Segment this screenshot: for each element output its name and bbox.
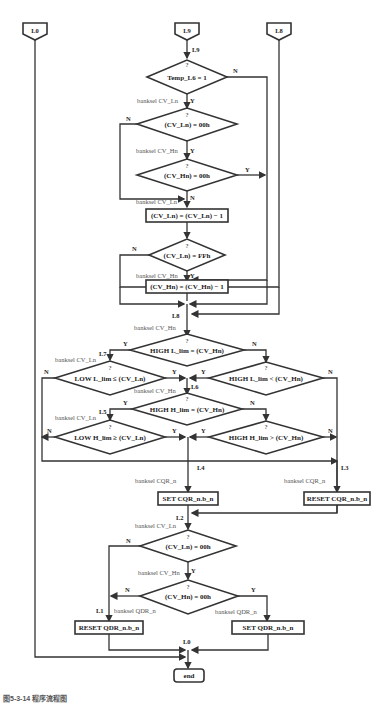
svg-text:SET QDR_n.b_n: SET QDR_n.b_n (243, 624, 294, 632)
svg-text:L1: L1 (96, 607, 104, 614)
svg-text:Y: Y (190, 147, 195, 154)
svg-text:Y: Y (251, 586, 256, 593)
svg-text:?: ? (186, 162, 189, 169)
svg-text:LOW L_lim ≤ (CV_Ln): LOW L_lim ≤ (CV_Ln) (75, 375, 146, 383)
svg-text:(CV_Ln) = 00h: (CV_Ln) = 00h (164, 121, 209, 129)
decision-high-llim-eq: ? HIGH L_lim = (CV_Hn) (130, 334, 244, 366)
svg-text:HIGH L_lim < (CV_Hn): HIGH L_lim < (CV_Hn) (229, 375, 303, 383)
decision-high-hlim-eq: ? HIGH H_lim = (CV_Hn) (132, 393, 242, 425)
svg-text:L5: L5 (99, 408, 107, 415)
svg-text:banksel CV_Ln: banksel CV_Ln (137, 97, 179, 104)
svg-text:?: ? (186, 242, 189, 249)
svg-text:N: N (328, 368, 333, 375)
svg-text:Temp_L6 = 1: Temp_L6 = 1 (167, 74, 207, 82)
svg-text:N: N (125, 586, 130, 593)
decision-low-hlim-ge: ? LOW H_lim ≥ (CV_Ln) (55, 420, 165, 454)
svg-text:?: ? (187, 583, 190, 590)
svg-text:L8: L8 (275, 27, 283, 34)
svg-text:RESET QDR_n.b_n: RESET QDR_n.b_n (79, 624, 140, 632)
svg-text:L2: L2 (176, 514, 184, 521)
svg-text:?: ? (186, 395, 189, 402)
svg-text:L6: L6 (191, 383, 199, 390)
svg-text:N: N (190, 194, 195, 201)
svg-text:N: N (126, 537, 131, 544)
svg-text:banksel CV_Hn: banksel CV_Hn (134, 387, 176, 394)
svg-text:(CV_Ln) = (CV_Ln) − 1: (CV_Ln) = (CV_Ln) − 1 (151, 212, 224, 220)
svg-text:banksel CQR_n: banksel CQR_n (284, 477, 326, 484)
svg-text:HIGH H_lim > (CV_Hn): HIGH H_lim > (CV_Hn) (229, 434, 304, 442)
flowchart: L0 L9 L8 L9 ? Temp_L6 = 1 N banksel CV_L… (0, 0, 391, 703)
svg-text:RESET CQR_n.b_n: RESET CQR_n.b_n (307, 495, 368, 503)
process-reset-qdr: RESET QDR_n.b_n (75, 621, 143, 634)
decision-temp-l6: ? Temp_L6 = 1 (147, 60, 227, 94)
process-set-cqr: SET CQR_n.b_n (158, 492, 218, 505)
svg-text:Y: Y (201, 368, 206, 375)
svg-text:(CV_Ln) = FFh: (CV_Ln) = FFh (164, 252, 211, 260)
svg-text:L0: L0 (183, 638, 191, 645)
svg-text:N: N (47, 427, 52, 434)
decision-cv-ln-00h-2: ? (CV_Ln) = 00h (140, 530, 236, 562)
process-decrement-cv-ln: (CV_Ln) = (CV_Ln) − 1 (146, 209, 228, 222)
svg-text:(CV_Hn) = 00h: (CV_Hn) = 00h (165, 593, 211, 601)
svg-text:Y: Y (123, 399, 128, 406)
svg-text:N: N (250, 399, 255, 406)
svg-text:L4: L4 (197, 464, 205, 471)
svg-text:?: ? (186, 61, 189, 68)
process-reset-cqr: RESET CQR_n.b_n (304, 492, 370, 505)
connector-l8: L8 (267, 23, 291, 40)
process-set-qdr: SET QDR_n.b_n (232, 621, 304, 634)
svg-text:Y: Y (172, 368, 177, 375)
svg-text:banksel CV_Ln: banksel CV_Ln (55, 414, 97, 421)
svg-text:banksel CV_Hn: banksel CV_Hn (136, 272, 178, 279)
svg-text:HIGH H_lim = (CV_Hn): HIGH H_lim = (CV_Hn) (150, 406, 225, 414)
connector-l9: L9 (175, 23, 199, 40)
svg-text:banksel QDR_n: banksel QDR_n (215, 608, 257, 615)
svg-text:L0: L0 (31, 27, 39, 34)
svg-text:banksel CV_Ln: banksel CV_Ln (136, 198, 178, 205)
terminal-end: end (174, 669, 204, 682)
svg-text:(CV_Hn) = 00h: (CV_Hn) = 00h (164, 172, 210, 180)
svg-text:?: ? (187, 533, 190, 540)
svg-text:Y: Y (172, 427, 177, 434)
svg-text:?: ? (109, 423, 112, 430)
svg-text:Y: Y (190, 97, 195, 104)
figure-caption: 图5-3-14 程序流程图 (3, 694, 67, 703)
svg-text:N: N (126, 115, 131, 122)
svg-text:?: ? (265, 423, 268, 430)
svg-text:Y: Y (245, 166, 250, 173)
svg-text:banksel CQR_n: banksel CQR_n (135, 477, 177, 484)
svg-text:L9: L9 (183, 27, 191, 34)
svg-text:L9: L9 (192, 46, 200, 53)
svg-text:N: N (328, 427, 333, 434)
svg-text:banksel CV_Ln: banksel CV_Ln (55, 356, 97, 363)
svg-text:?: ? (186, 111, 189, 118)
svg-text:Y: Y (201, 427, 206, 434)
svg-text:end: end (184, 672, 195, 680)
svg-text:banksel CV_Hn: banksel CV_Hn (136, 147, 178, 154)
svg-text:?: ? (186, 337, 189, 344)
svg-text:L7: L7 (99, 350, 107, 357)
svg-text:HIGH L_lim = (CV_Hn): HIGH L_lim = (CV_Hn) (150, 347, 224, 355)
svg-text:L8: L8 (172, 312, 180, 319)
svg-text:?: ? (109, 364, 112, 371)
svg-text:N: N (44, 368, 49, 375)
svg-text:L3: L3 (341, 464, 349, 471)
svg-text:LOW H_lim ≥ (CV_Ln): LOW H_lim ≥ (CV_Ln) (74, 434, 146, 442)
svg-text:Y: Y (190, 272, 195, 279)
connector-l0: L0 (23, 23, 47, 40)
decision-cv-hn-00h: ? (CV_Hn) = 00h (137, 159, 237, 191)
decision-high-llim-lt: ? HIGH L_lim < (CV_Hn) (209, 362, 323, 395)
svg-text:banksel CV_Hn: banksel CV_Hn (134, 324, 176, 331)
svg-text:N: N (252, 340, 257, 347)
svg-text:(CV_Ln) = 00h: (CV_Ln) = 00h (165, 543, 210, 551)
decision-high-hlim-gt: ? HIGH H_lim > (CV_Hn) (209, 421, 323, 454)
svg-text:Y: Y (191, 567, 196, 574)
decision-cv-ln-ffh: ? (CV_Ln) = FFh (149, 239, 225, 271)
svg-text:N: N (132, 245, 137, 252)
svg-text:?: ? (265, 364, 268, 371)
svg-text:SET CQR_n.b_n: SET CQR_n.b_n (163, 495, 214, 503)
svg-text:Y: Y (123, 340, 128, 347)
svg-text:banksel CV_Ln: banksel CV_Ln (135, 522, 177, 529)
svg-text:banksel CV_Hn: banksel CV_Hn (138, 569, 180, 576)
process-decrement-cv-hn: (CV_Hn) = (CV_Hn) − 1 (146, 280, 228, 293)
